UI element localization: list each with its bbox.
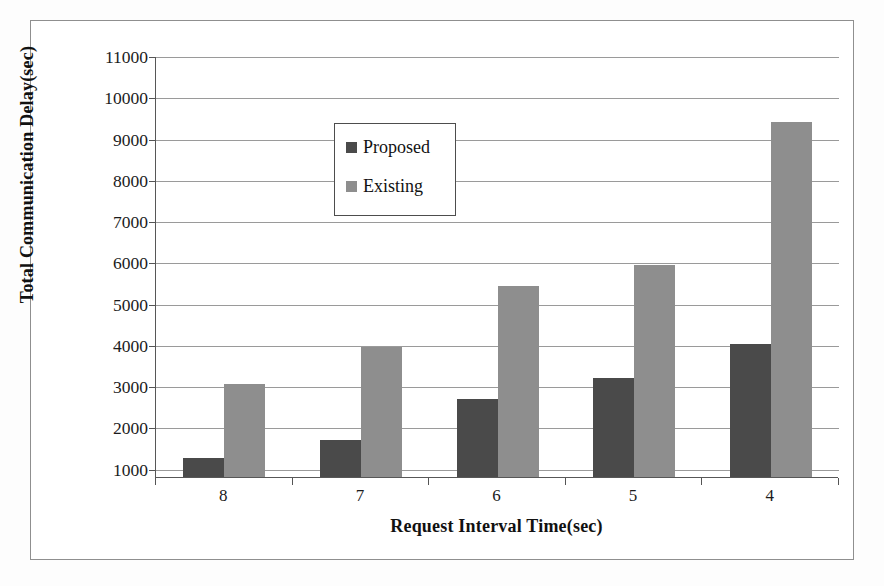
- y-axis-tick-label: 5000: [88, 295, 148, 316]
- y-axis-tick: [149, 140, 156, 141]
- y-axis-tick-label: 9000: [88, 130, 148, 151]
- x-axis-tick-label: 7: [330, 486, 390, 506]
- y-axis-tick-label: 10000: [88, 88, 148, 109]
- x-axis-tick-label: 8: [193, 486, 253, 506]
- bar-proposed-5: [593, 378, 634, 477]
- bar-existing-7: [361, 347, 402, 477]
- y-axis-tick: [149, 222, 156, 223]
- y-axis-tick-label: 2000: [88, 418, 148, 439]
- x-axis-tick-label: 4: [740, 486, 800, 506]
- bar-proposed-6: [457, 399, 498, 477]
- gridline: [156, 98, 839, 99]
- legend-swatch-existing-icon: [346, 181, 357, 192]
- x-axis-tick: [838, 478, 839, 485]
- gridline: [156, 140, 839, 141]
- x-axis-tick-label: 6: [467, 486, 527, 506]
- chart-legend: Proposed Existing: [334, 123, 456, 216]
- figure-page: Total Communication Delay(sec) 100020003…: [0, 0, 884, 586]
- y-axis-tick: [149, 305, 156, 306]
- x-axis-tick-label: 5: [603, 486, 663, 506]
- y-axis-tick: [149, 98, 156, 99]
- y-axis-tick-label: 11000: [88, 47, 148, 68]
- x-axis-tick: [292, 478, 293, 485]
- bar-existing-6: [498, 286, 539, 477]
- x-axis-tick: [565, 478, 566, 485]
- bar-existing-8: [224, 384, 265, 477]
- gridline: [156, 263, 839, 264]
- y-axis-tick-label: 6000: [88, 253, 148, 274]
- bar-proposed-4: [730, 344, 771, 477]
- y-axis-tick-label: 3000: [88, 377, 148, 398]
- legend-item-existing: Existing: [346, 176, 423, 197]
- legend-label-existing: Existing: [363, 176, 423, 197]
- y-axis-title: Total Communication Delay(sec): [17, 0, 38, 390]
- y-axis-tick-label: 8000: [88, 171, 148, 192]
- x-axis-tick: [428, 478, 429, 485]
- x-axis-tick: [155, 478, 156, 485]
- y-axis-tick: [149, 181, 156, 182]
- y-axis-tick: [149, 470, 156, 471]
- bar-existing-5: [634, 265, 675, 477]
- gridline: [156, 57, 839, 58]
- x-axis-title: Request Interval Time(sec): [155, 516, 838, 537]
- bar-existing-4: [771, 122, 812, 477]
- gridline: [156, 181, 839, 182]
- x-axis-tick: [701, 478, 702, 485]
- plot-area: 1000200030004000500060007000800090001000…: [155, 57, 838, 478]
- y-axis-tick-label: 4000: [88, 336, 148, 357]
- y-axis-tick: [149, 57, 156, 58]
- y-axis-tick: [149, 346, 156, 347]
- legend-label-proposed: Proposed: [363, 137, 430, 158]
- bar-proposed-7: [320, 440, 361, 477]
- y-axis-tick: [149, 387, 156, 388]
- legend-swatch-proposed-icon: [346, 142, 357, 153]
- y-axis-tick: [149, 428, 156, 429]
- y-axis-tick: [149, 263, 156, 264]
- legend-item-proposed: Proposed: [346, 137, 430, 158]
- bar-chart: Total Communication Delay(sec) 100020003…: [0, 0, 884, 586]
- bar-proposed-8: [183, 458, 224, 477]
- gridline: [156, 222, 839, 223]
- y-axis-tick-label: 7000: [88, 212, 148, 233]
- y-axis-tick-label: 1000: [88, 460, 148, 481]
